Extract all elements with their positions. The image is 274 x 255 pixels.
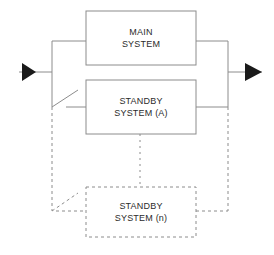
switch-standby-a [52, 90, 86, 107]
output-bus-line [196, 41, 228, 211]
diagram-canvas [0, 0, 274, 255]
switch-standby-n [52, 193, 86, 211]
input-arrow [19, 63, 52, 81]
block-standby-system-n [86, 187, 196, 237]
system-block-diagram: MAIN SYSTEM STANDBY SYSTEM (A) STANDBY S… [0, 0, 274, 255]
block-main-system [86, 11, 196, 65]
output-arrowhead [245, 63, 262, 81]
switch-n-blade [52, 193, 78, 211]
input-arrowhead [22, 63, 36, 81]
input-bus-line [52, 41, 86, 211]
output-arrow [228, 63, 262, 81]
switch-a-blade [52, 90, 78, 107]
block-standby-system-a [86, 80, 196, 134]
